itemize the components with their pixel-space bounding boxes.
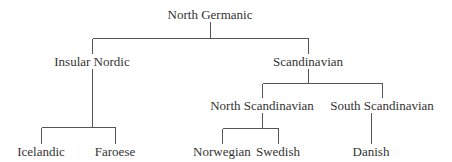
node-south-scandinavian: South Scandinavian [329, 99, 435, 112]
node-north-scandinavian: North Scandinavian [209, 99, 315, 112]
language-tree-diagram: North Germanic Insular Nordic Scandinavi… [0, 0, 452, 162]
node-faroese: Faroese [94, 145, 136, 158]
node-insular-nordic: Insular Nordic [53, 55, 130, 68]
node-icelandic: Icelandic [16, 145, 66, 158]
node-danish: Danish [352, 145, 391, 158]
node-swedish: Swedish [255, 145, 301, 158]
tree-connectors [0, 0, 452, 162]
node-scandinavian: Scandinavian [272, 55, 344, 68]
node-norwegian: Norwegian [192, 145, 252, 158]
node-north-germanic: North Germanic [167, 8, 254, 21]
